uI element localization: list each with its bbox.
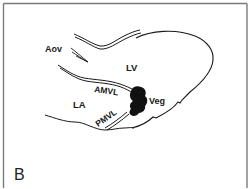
label-la: LA [73, 99, 86, 110]
echocardiogram-diagram: Aov LV AMVL Veg LA PMVL B [0, 0, 250, 188]
label-aov: Aov [45, 44, 62, 54]
aortic-valve-leaflets [71, 48, 88, 62]
aortic-wall-upper [74, 30, 141, 49]
vegetation-mass [130, 86, 148, 116]
label-lv: LV [126, 62, 138, 73]
left-ventricle-outline [132, 31, 213, 128]
label-amvl: AMVL [94, 84, 119, 97]
panel-frame [4, 4, 248, 189]
panel-label: B [14, 166, 25, 183]
label-veg: Veg [149, 96, 165, 106]
